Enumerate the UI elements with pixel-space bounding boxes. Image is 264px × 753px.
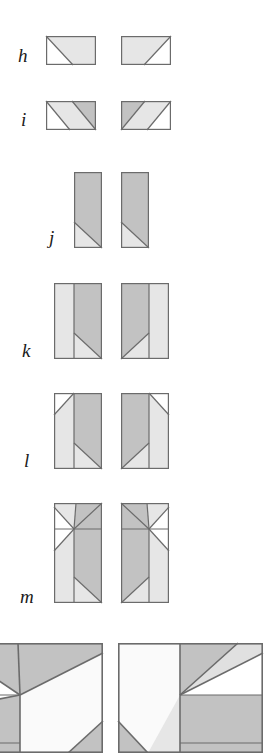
tile-l-left: [54, 393, 102, 469]
row-label-m: m: [20, 587, 34, 606]
region-light-left: [54, 283, 74, 359]
region-light-right: [149, 283, 169, 359]
tile-bottom-right: [118, 643, 263, 753]
row-label-j: j: [49, 228, 54, 247]
region-medium-right: [180, 695, 263, 753]
row-label-k: k: [22, 341, 30, 360]
tile-h-right: [121, 36, 171, 65]
region-medium-left: [0, 695, 20, 753]
tile-m-right: [121, 503, 169, 603]
row-label-l: l: [24, 451, 29, 470]
tile-i-right: [121, 101, 171, 130]
tile-m-left: [54, 503, 102, 603]
tile-h-left: [46, 36, 96, 65]
tile-k-right: [121, 283, 169, 359]
tile-j-right: [121, 172, 149, 248]
tile-bottom-left: [0, 643, 103, 753]
tile-k-left: [54, 283, 102, 359]
tile-i-left: [46, 101, 96, 130]
tile-l-right: [121, 393, 169, 469]
tile-j-left: [74, 172, 102, 248]
row-label-i: i: [21, 110, 26, 129]
row-label-h: h: [18, 46, 28, 65]
